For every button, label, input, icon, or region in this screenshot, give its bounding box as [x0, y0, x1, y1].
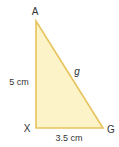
triangle-diagram: A X G 5 cm 3.5 cm g: [0, 0, 119, 147]
vertex-label-g: G: [107, 124, 115, 135]
vertex-label-a: A: [32, 6, 39, 17]
vertex-label-x: X: [24, 123, 31, 134]
triangle-shape: [36, 21, 103, 128]
side-label-xg: 3.5 cm: [55, 133, 82, 143]
side-label-ag: g: [74, 66, 80, 77]
side-label-ax: 5 cm: [9, 77, 29, 87]
